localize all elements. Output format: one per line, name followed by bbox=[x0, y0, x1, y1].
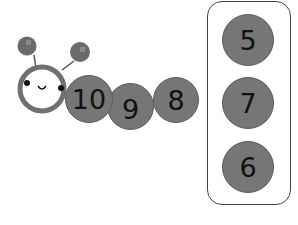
option-number: 5 bbox=[239, 27, 256, 54]
option-number: 6 bbox=[239, 154, 256, 181]
answer-option[interactable]: 7 bbox=[222, 77, 274, 129]
segment-number: 9 bbox=[122, 96, 139, 123]
option-number: 7 bbox=[239, 90, 256, 117]
segment-number: 8 bbox=[167, 87, 184, 114]
answer-option[interactable]: 6 bbox=[222, 141, 274, 193]
caterpillar-face-icon bbox=[0, 0, 100, 130]
caterpillar-segment[interactable]: 8 bbox=[153, 77, 199, 123]
answer-option[interactable]: 5 bbox=[222, 14, 274, 66]
caterpillar-segment[interactable]: 9 bbox=[107, 83, 154, 130]
